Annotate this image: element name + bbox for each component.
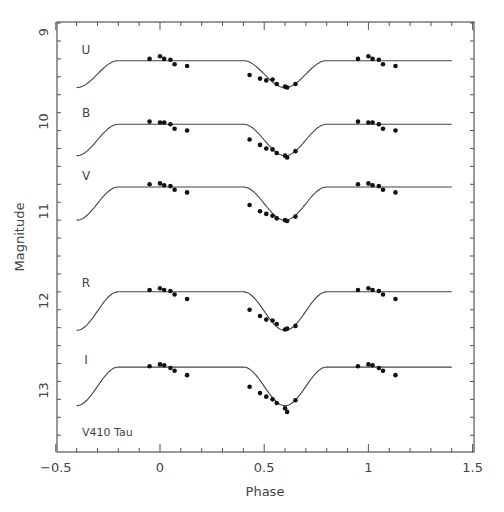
data-point-I <box>147 364 152 369</box>
data-point-I <box>293 398 298 403</box>
data-point-B <box>185 128 190 133</box>
data-point-V <box>370 183 375 188</box>
data-point-U <box>147 57 152 62</box>
data-point-U <box>264 78 269 83</box>
data-point-B <box>274 151 279 156</box>
x-tick-label: 0.5 <box>254 460 275 475</box>
data-point-U <box>168 57 173 62</box>
data-point-B <box>247 137 252 142</box>
x-axis: −0.500.511.5 <box>40 22 483 475</box>
y-tick-label: 9 <box>36 28 51 36</box>
data-point-U <box>377 57 382 62</box>
data-point-R <box>147 288 152 293</box>
data-point-V <box>356 182 361 187</box>
data-point-I <box>247 385 252 390</box>
data-point-I <box>168 366 173 371</box>
data-point-I <box>185 373 190 378</box>
y-tick-label: 12 <box>36 293 51 310</box>
data-point-R <box>168 289 173 294</box>
band-label-U: U <box>82 43 91 57</box>
data-point-V <box>393 190 398 195</box>
data-point-B <box>393 128 398 133</box>
data-point-U <box>247 73 252 78</box>
data-point-R <box>356 288 361 293</box>
band-label-R: R <box>82 276 90 290</box>
data-points <box>147 54 398 414</box>
data-point-V <box>247 203 252 208</box>
y-tick-label: 13 <box>36 382 51 399</box>
data-point-U <box>356 57 361 62</box>
data-point-B <box>366 120 371 125</box>
data-point-R <box>285 326 290 331</box>
data-point-R <box>270 318 275 323</box>
data-point-B <box>270 147 275 152</box>
data-point-V <box>168 184 173 189</box>
data-point-I <box>264 394 269 399</box>
data-point-R <box>258 314 263 319</box>
data-point-R <box>366 286 371 291</box>
data-point-R <box>247 307 252 312</box>
data-point-U <box>393 64 398 69</box>
data-point-V <box>381 187 386 192</box>
data-point-B <box>381 126 386 131</box>
data-point-B <box>258 143 263 148</box>
data-point-I <box>393 373 398 378</box>
y-axis-label: Magnitude <box>12 203 27 272</box>
data-point-V <box>162 183 167 188</box>
data-point-R <box>158 286 163 291</box>
data-point-B <box>168 122 173 127</box>
data-point-V <box>293 214 298 219</box>
data-point-R <box>293 324 298 329</box>
data-point-I <box>377 366 382 371</box>
model-curves <box>77 61 452 406</box>
data-point-V <box>366 181 371 186</box>
data-point-U <box>172 62 177 67</box>
data-point-I <box>162 363 167 368</box>
data-point-B <box>370 120 375 125</box>
data-point-B <box>377 122 382 127</box>
x-tick-label: 0 <box>156 460 164 475</box>
data-point-B <box>293 149 298 154</box>
data-point-U <box>366 54 371 59</box>
data-point-V <box>185 190 190 195</box>
x-tick-label: 1.5 <box>462 460 483 475</box>
data-point-U <box>381 62 386 67</box>
x-axis-label: Phase <box>246 484 285 499</box>
data-point-I <box>274 401 279 406</box>
data-point-B <box>264 146 269 151</box>
data-point-V <box>158 181 163 186</box>
data-point-R <box>264 317 269 322</box>
data-point-R <box>377 289 382 294</box>
data-point-B <box>162 120 167 125</box>
data-point-V <box>258 209 263 214</box>
y-tick-label: 10 <box>36 113 51 130</box>
data-point-V <box>285 219 290 224</box>
data-point-V <box>377 184 382 189</box>
band-label-B: B <box>82 106 90 120</box>
data-point-I <box>381 368 386 373</box>
data-point-B <box>147 119 152 124</box>
data-point-I <box>258 391 263 396</box>
data-point-V <box>172 187 177 192</box>
data-point-R <box>393 297 398 302</box>
data-point-I <box>366 362 371 367</box>
data-point-I <box>356 364 361 369</box>
data-point-R <box>162 288 167 293</box>
data-point-U <box>285 85 290 90</box>
data-point-U <box>370 57 375 62</box>
band-label-V: V <box>82 169 91 183</box>
data-point-I <box>158 362 163 367</box>
light-curve-chart: −0.500.511.5 910111213 UBVRI Phase Magni… <box>0 0 504 512</box>
x-tick-label: 1 <box>364 460 372 475</box>
data-point-U <box>258 76 263 81</box>
y-tick-label: 11 <box>36 203 51 220</box>
data-point-U <box>293 82 298 87</box>
data-point-I <box>370 363 375 368</box>
data-point-B <box>356 119 361 124</box>
data-point-U <box>185 64 190 69</box>
data-point-I <box>172 368 177 373</box>
data-point-V <box>274 216 279 221</box>
data-point-R <box>185 297 190 302</box>
band-label-I: I <box>84 353 88 367</box>
star-name-annotation: V410 Tau <box>82 426 133 439</box>
